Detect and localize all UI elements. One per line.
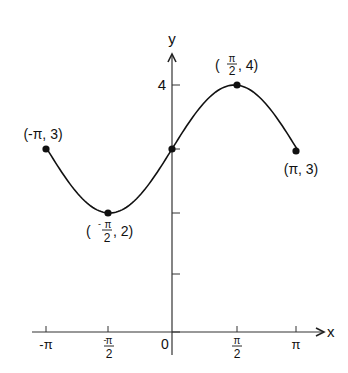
point-neg-half-pi (104, 209, 111, 216)
annotation-neg-pi: (-π, 3) (23, 126, 62, 142)
x-tick-label-pi: π (292, 337, 301, 352)
svg-text:π: π (229, 53, 236, 64)
svg-text:2: 2 (234, 347, 241, 361)
svg-text:(: ( (86, 223, 91, 239)
svg-text:π: π (234, 335, 241, 346)
point-zero (168, 145, 175, 152)
svg-text:, 4): , 4) (238, 57, 258, 73)
x-ticks (46, 326, 296, 332)
svg-text:2: 2 (106, 347, 113, 361)
annotation-pi: (π, 3) (284, 161, 319, 177)
svg-text:π: π (106, 335, 113, 346)
y-axis-label: y (168, 30, 176, 47)
svg-text:2: 2 (229, 64, 236, 78)
y-ticks (172, 85, 180, 332)
svg-text:(: ( (215, 57, 220, 73)
x-axis-label: x (327, 323, 335, 340)
point-half-pi (233, 81, 240, 88)
point-neg-pi (42, 145, 49, 152)
annotation-half-pi: ( π 2 , 4) (215, 53, 258, 78)
x-tick-label-half-pi: π 2 (232, 335, 242, 361)
svg-text:π: π (105, 219, 112, 230)
point-pi (292, 147, 299, 154)
annotation-neg-half-pi: ( - π 2 , 2) (86, 219, 133, 245)
y-tick-label-4: 4 (158, 76, 166, 93)
x-tick-label-neg-half-pi: - π 2 (104, 335, 115, 361)
sine-graph: y x 4 0 -π - π 2 π 2 π (-π, 3) (π, 3) ( … (0, 0, 348, 373)
x-tick-label-neg-pi: -π (39, 337, 52, 352)
svg-text:2: 2 (104, 231, 111, 245)
origin-label: 0 (161, 336, 169, 352)
svg-text:-: - (98, 219, 101, 229)
svg-text:, 2): , 2) (113, 223, 133, 239)
